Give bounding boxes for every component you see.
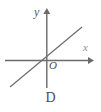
y-axis-label: y [34, 6, 39, 18]
figure-container: y x O D [0, 0, 101, 112]
plotted-line [10, 27, 82, 87]
x-axis-label: x [83, 42, 88, 53]
origin-label: O [49, 60, 57, 71]
y-axis-arrowhead-icon [43, 8, 50, 14]
x-axis-arrowhead-icon [88, 57, 94, 64]
answer-choice-label: D [0, 91, 101, 105]
